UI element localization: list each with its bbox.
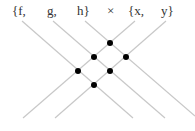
point-g-y — [107, 68, 113, 74]
point-g-x — [91, 54, 97, 60]
product-diagram — [0, 0, 195, 131]
point-h-y — [123, 54, 129, 60]
point-f-x — [75, 68, 81, 74]
line-h — [85, 21, 195, 116]
point-h-x — [107, 40, 113, 46]
point-f-y — [91, 82, 97, 88]
